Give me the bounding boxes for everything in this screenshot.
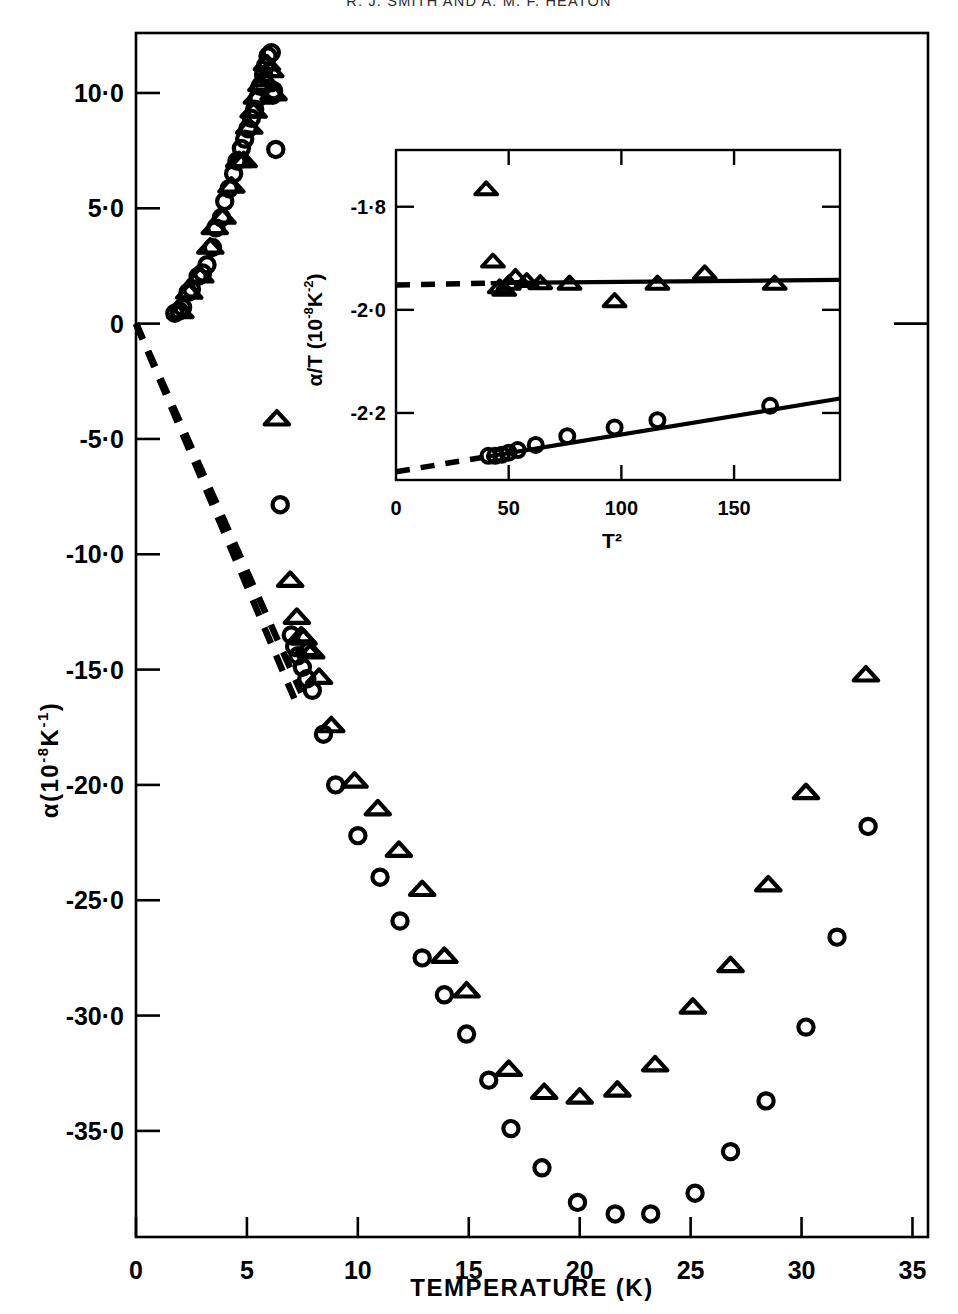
y-tick-label: -20·0 bbox=[66, 771, 124, 799]
y-axis-title-symbol: α(10 bbox=[36, 763, 63, 818]
dashed-fit-lower bbox=[136, 324, 296, 702]
x-tick-label: 0 bbox=[129, 1256, 143, 1284]
y-tick-label: -15·0 bbox=[66, 656, 124, 684]
y-tick-label: -10·0 bbox=[66, 540, 124, 568]
inset-x-tick-label: 100 bbox=[605, 497, 638, 519]
data-point-circle bbox=[350, 828, 365, 843]
data-point-triangle bbox=[285, 609, 309, 622]
x-tick-label: 30 bbox=[788, 1256, 816, 1284]
y-axis-title-mid: K bbox=[36, 728, 63, 747]
x-tick-label: 5 bbox=[240, 1256, 254, 1284]
data-point-triangle bbox=[387, 842, 411, 855]
data-point-triangle bbox=[265, 411, 289, 424]
data-point-triangle bbox=[210, 209, 234, 222]
inset-y-title-close: ) bbox=[303, 273, 326, 280]
inset-axes-box bbox=[396, 150, 840, 480]
inset-y-axis-title: α/T (10-8K-2) bbox=[301, 273, 326, 386]
data-point-circle bbox=[829, 930, 844, 945]
y-axis-title: α(10-8K-1) bbox=[34, 702, 63, 818]
x-tick-label: 35 bbox=[899, 1256, 927, 1284]
data-point-triangle bbox=[718, 958, 742, 971]
y-tick-label: -35·0 bbox=[66, 1117, 124, 1145]
data-point-circle bbox=[687, 1186, 702, 1201]
inset-y-title-exp1: -8 bbox=[301, 307, 316, 319]
data-point-circle bbox=[392, 913, 407, 928]
data-point-triangle bbox=[366, 801, 390, 814]
inset-x-tick-label: 50 bbox=[498, 497, 520, 519]
data-point-circle bbox=[459, 1026, 474, 1041]
y-tick-label: -5·0 bbox=[80, 425, 124, 453]
inset-x-axis-title: T² bbox=[602, 529, 622, 552]
data-point-circle bbox=[798, 1020, 813, 1035]
inset-y-tick-label: -2·0 bbox=[350, 299, 386, 321]
inset-y-title-exp2: -2 bbox=[301, 280, 316, 292]
data-point-circle bbox=[415, 950, 430, 965]
data-point-circle bbox=[372, 870, 387, 885]
data-point-circle bbox=[570, 1195, 585, 1210]
inset-y-tick-label: -2·2 bbox=[350, 402, 386, 424]
data-point-triangle bbox=[342, 773, 366, 786]
inset-plot-frame bbox=[396, 150, 840, 480]
data-point-triangle bbox=[794, 785, 818, 798]
y-tick-label: -30·0 bbox=[66, 1002, 124, 1030]
data-point-triangle bbox=[605, 1082, 629, 1095]
data-point-circle bbox=[861, 819, 876, 834]
data-point-circle bbox=[534, 1160, 549, 1175]
data-point-circle bbox=[328, 777, 343, 792]
data-point-triangle bbox=[854, 667, 878, 680]
data-point-triangle bbox=[532, 1085, 556, 1098]
data-point-triangle bbox=[756, 877, 780, 890]
data-point-triangle bbox=[432, 948, 456, 961]
y-tick-label: 5·0 bbox=[88, 194, 124, 222]
y-tick-label: 0 bbox=[110, 310, 124, 338]
data-point-triangle bbox=[567, 1089, 591, 1102]
inset-y-title-symbol: α/T (10 bbox=[303, 319, 326, 387]
inset-y-title-mid: K bbox=[303, 292, 326, 307]
y-axis-title-close: ) bbox=[36, 702, 63, 712]
data-point-triangle bbox=[681, 999, 705, 1012]
data-point-circle bbox=[273, 497, 288, 512]
x-tick-label: 10 bbox=[344, 1256, 372, 1284]
data-point-circle bbox=[758, 1093, 773, 1108]
data-point-triangle bbox=[454, 983, 478, 996]
inset-x-tick-label: 150 bbox=[717, 497, 750, 519]
data-point-circle bbox=[481, 1073, 496, 1088]
inset-x-tick-label: 0 bbox=[390, 497, 401, 519]
data-point-circle bbox=[268, 142, 283, 157]
figure-root: R. J. SMITH AND A. M. F. HEATON 05101520… bbox=[0, 0, 958, 1314]
data-point-circle bbox=[608, 1206, 623, 1221]
alpha-vs-temperature-figure: 0510152025303510·05·00-5·0-10·0-15·0-20·… bbox=[0, 0, 958, 1314]
data-point-circle bbox=[437, 987, 452, 1002]
data-point-triangle bbox=[319, 718, 343, 731]
x-axis-title: TEMPERATURE (K) bbox=[410, 1274, 653, 1301]
y-axis-title-exp2: -1 bbox=[34, 711, 51, 727]
inset-y-tick-label: -1·8 bbox=[350, 196, 386, 218]
y-tick-label: 10·0 bbox=[74, 79, 124, 107]
y-axis-title-text: α(10-8K-1) bbox=[34, 702, 63, 818]
data-point-circle bbox=[723, 1144, 738, 1159]
y-tick-label: -25·0 bbox=[66, 886, 124, 914]
data-point-triangle bbox=[643, 1057, 667, 1070]
y-axis-title-exp1: -8 bbox=[34, 746, 51, 762]
data-point-circle bbox=[503, 1121, 518, 1136]
x-tick-label: 25 bbox=[677, 1256, 705, 1284]
inset-y-axis-title-text: α/T (10-8K-2) bbox=[301, 273, 326, 386]
data-point-triangle bbox=[410, 882, 434, 895]
inset-x-axis-title-text: T² bbox=[602, 529, 622, 552]
data-point-triangle bbox=[278, 573, 302, 586]
data-point-circle bbox=[643, 1206, 658, 1221]
data-point-triangle bbox=[496, 1062, 520, 1075]
